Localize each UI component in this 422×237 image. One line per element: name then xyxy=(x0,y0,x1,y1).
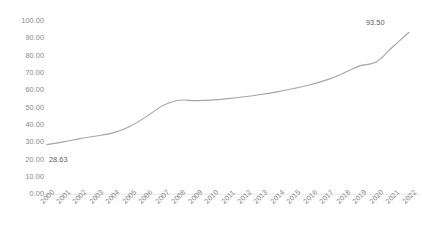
x-tick-label: 2015 xyxy=(285,188,302,205)
x-tick-label: 2018 xyxy=(335,188,352,205)
data-label-first: 28.63 xyxy=(49,156,68,164)
x-tick-label: 2019 xyxy=(351,188,368,205)
line-chart: 100.00 90.00 80.00 70.00 60.00 50.00 40.… xyxy=(0,0,422,237)
x-tick-label: 2014 xyxy=(269,188,286,205)
x-tick-label: 2008 xyxy=(170,188,187,205)
x-tick-label: 2009 xyxy=(187,188,204,205)
x-tick-label: 2011 xyxy=(220,189,237,206)
x-axis: 2000200120022003200420052006200720082009… xyxy=(0,0,422,237)
x-tick-label: 2005 xyxy=(121,188,138,205)
x-tick-label: 2007 xyxy=(154,188,171,205)
x-tick-label: 2003 xyxy=(88,188,105,205)
x-tick-label: 2022 xyxy=(401,188,418,205)
x-tick-label: 2021 xyxy=(384,188,401,205)
x-tick-label: 2020 xyxy=(368,188,385,205)
x-tick-label: 2006 xyxy=(137,188,154,205)
x-tick-label: 2004 xyxy=(104,188,121,205)
x-tick-label: 2010 xyxy=(203,188,220,205)
x-tick-label: 2013 xyxy=(252,188,269,205)
x-tick-label: 2016 xyxy=(302,188,319,205)
x-tick-label: 2017 xyxy=(318,188,335,205)
x-tick-label: 2002 xyxy=(71,188,88,205)
data-label-last: 93.50 xyxy=(366,19,385,27)
x-tick-label: 2001 xyxy=(55,188,72,205)
x-tick-label: 2000 xyxy=(39,188,56,205)
x-tick-label: 2012 xyxy=(236,188,253,205)
